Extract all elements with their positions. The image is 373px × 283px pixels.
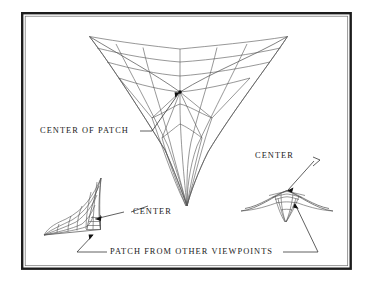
label-patch-from-other-viewpoints: PATCH FROM OTHER VIEWPOINTS (110, 247, 273, 256)
leader-center-right (287, 157, 320, 193)
lower-right-patch-mesh (241, 191, 333, 223)
label-center-of-patch: CENTER OF PATCH (40, 126, 129, 135)
label-center-left: CENTER (133, 207, 172, 216)
figure-canvas: CENTER OF PATCH CENTER CENTER PATCH FROM… (0, 0, 373, 283)
leader-viewpoints-left (77, 234, 107, 252)
patch-diagram: CENTER OF PATCH CENTER CENTER PATCH FROM… (0, 0, 373, 283)
label-center-right: CENTER (255, 151, 294, 160)
leader-viewpoints-right (283, 203, 318, 252)
main-patch-mesh (90, 37, 288, 207)
lower-left-patch-mesh (44, 178, 101, 235)
